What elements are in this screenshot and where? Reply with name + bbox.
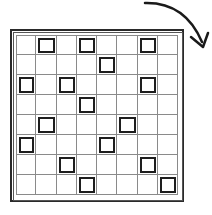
grid-cell	[117, 75, 137, 95]
marked-cell	[57, 155, 77, 175]
grid-cell	[77, 75, 97, 95]
grid-cell	[97, 175, 117, 195]
grid-cell	[158, 75, 178, 95]
grid-cell	[77, 115, 97, 135]
grid-cell	[97, 95, 117, 115]
marked-cell	[36, 35, 56, 55]
grid-cell	[16, 95, 36, 115]
grid-cell	[16, 35, 36, 55]
grid-cell	[57, 55, 77, 75]
grid-cell	[97, 75, 117, 95]
grid-cell	[117, 155, 137, 175]
marked-cell	[77, 175, 97, 195]
grid-cell	[57, 175, 77, 195]
marked-cell	[16, 75, 36, 95]
marked-cell	[57, 75, 77, 95]
grid-cell	[117, 55, 137, 75]
grid-cell	[36, 135, 56, 155]
grid-cell	[138, 95, 158, 115]
grid-cell	[97, 155, 117, 175]
grid-cell	[138, 175, 158, 195]
grid-cell	[117, 95, 137, 115]
marked-cell	[77, 35, 97, 55]
grid-cell	[158, 115, 178, 135]
marked-cell	[16, 135, 36, 155]
grid-cell	[36, 175, 56, 195]
grid-cell	[16, 55, 36, 75]
grid-cell	[138, 115, 158, 135]
grid-cell	[57, 115, 77, 135]
grid-cell	[158, 135, 178, 155]
grid-cell	[57, 135, 77, 155]
marked-cell	[138, 75, 158, 95]
grid-cell	[36, 155, 56, 175]
grid-cell	[36, 75, 56, 95]
rotate-clockwise-arrow-icon	[140, 0, 212, 50]
grid-cell	[77, 135, 97, 155]
grid-cell	[138, 135, 158, 155]
grid-cell	[77, 55, 97, 75]
grid-cell	[158, 155, 178, 175]
grid-cell	[158, 95, 178, 115]
marked-cell	[97, 135, 117, 155]
grid-cell	[117, 135, 137, 155]
marked-cell	[36, 115, 56, 135]
grid-cell	[158, 55, 178, 75]
grid-cell	[97, 115, 117, 135]
grid-cell	[36, 55, 56, 75]
marked-cell	[97, 55, 117, 75]
grid-cell	[97, 35, 117, 55]
grid-cell	[138, 55, 158, 75]
grid-cell	[117, 35, 137, 55]
grid-8x8	[16, 35, 178, 195]
grid-cell	[16, 155, 36, 175]
grid-cell	[117, 175, 137, 195]
grid-cell	[16, 115, 36, 135]
marked-cell	[117, 115, 137, 135]
marked-cell	[77, 95, 97, 115]
marked-cell	[138, 155, 158, 175]
grid-cell	[57, 35, 77, 55]
grid-cell	[77, 155, 97, 175]
grid-cell	[16, 175, 36, 195]
grid-cell	[57, 95, 77, 115]
grid-cell	[36, 95, 56, 115]
marked-cell	[158, 175, 178, 195]
